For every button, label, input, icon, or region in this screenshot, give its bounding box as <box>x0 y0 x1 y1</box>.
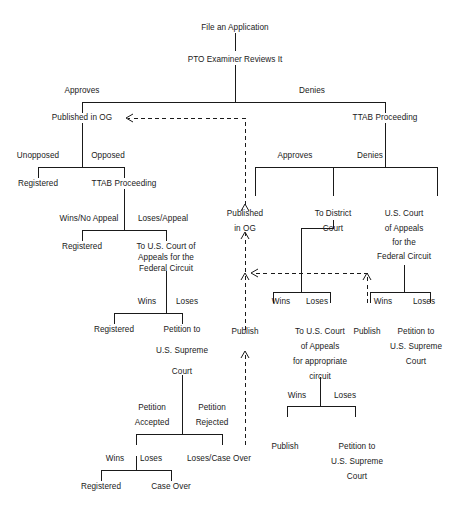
edge-label-petition-rejected-line2: Rejected <box>196 418 229 427</box>
edge-label-approves-top: Approves <box>65 86 100 95</box>
edge-label-wins-cafc-left: Wins <box>138 297 156 306</box>
node-published-og-mid-line2: in OG <box>234 224 256 233</box>
edge-label-loses-cafc-right: Loses <box>413 297 435 306</box>
node-scotus-left-line3: Court <box>172 367 193 376</box>
edge-label-denies-top: Denies <box>299 86 325 95</box>
node-publish-bottom: Publish <box>271 442 299 451</box>
node-circuit-court-line3: for appropriate <box>293 357 347 366</box>
node-publish-right: Publish <box>353 327 381 336</box>
node-cafc-left-line2: Appeals for the <box>138 253 194 262</box>
edge-label-petition-accepted-line2: Accepted <box>135 418 170 427</box>
node-ttab-left: TTAB Proceeding <box>92 179 157 188</box>
node-circuit-court-line1: To U.S. Court <box>295 327 345 336</box>
edge-label-approves-ttab-right: Approves <box>278 151 313 160</box>
node-registered-cafc-wins: Registered <box>94 325 134 334</box>
node-scotus-bottom-line1: Petition to <box>339 442 376 451</box>
edge-label-petition-accepted-line1: Petition <box>138 403 166 412</box>
node-scotus-bottom-line2: U.S. Supreme <box>331 457 383 466</box>
node-circuit-court-line2: of Appeals <box>301 342 340 351</box>
node-registered-wins-no-appeal: Registered <box>62 242 102 251</box>
edge-label-loses-appeal: Loses/Appeal <box>138 214 188 223</box>
edge-label-wins-no-appeal: Wins/No Appeal <box>60 214 119 223</box>
flowchart-svg: File an Application PTO Examiner Reviews… <box>0 0 462 518</box>
edge-label-opposed: Opposed <box>91 151 125 160</box>
edge-label-loses-scotus-left: Loses <box>140 454 162 463</box>
node-district-court-line2: Court <box>323 224 344 233</box>
node-scotus-right-line1: Petition to <box>398 327 435 336</box>
node-scotus-right-line2: U.S. Supreme <box>390 342 442 351</box>
node-pto-examiner: PTO Examiner Reviews It <box>188 55 283 64</box>
edge-labels: Approves Denies Unopposed Opposed Wins/N… <box>17 86 435 463</box>
node-cafc-left-line3: Federal Circuit <box>139 264 194 273</box>
edge-label-wins-cafc-right: Wins <box>374 297 392 306</box>
node-cafc-right-line2: of Appeals <box>385 224 424 233</box>
edge-label-petition-rejected-line1: Petition <box>198 403 226 412</box>
node-file-application: File an Application <box>201 23 269 32</box>
edge-label-loses-district: Loses <box>306 297 328 306</box>
node-circuit-court-line4: circuit <box>309 372 331 381</box>
node-case-over-left: Case Over <box>151 482 191 491</box>
node-scotus-right-line3: Court <box>406 357 427 366</box>
edge-label-wins-scotus-left: Wins <box>106 454 124 463</box>
node-registered-final-left: Registered <box>81 482 121 491</box>
edge-label-wins-circuit: Wins <box>288 391 306 400</box>
node-cafc-right-line1: U.S. Court <box>385 209 424 218</box>
node-district-court-line1: To District <box>315 209 352 218</box>
node-registered-unopposed: Registered <box>18 179 58 188</box>
node-cafc-right-line3: for the <box>392 238 416 247</box>
edge-label-denies-ttab-right: Denies <box>357 151 383 160</box>
node-cafc-left-line1: To U.S. Court of <box>136 242 196 251</box>
edge-label-loses-cafc-left: Loses <box>176 297 198 306</box>
node-published-og-mid-line1: Published <box>227 209 264 218</box>
node-scotus-bottom-line3: Court <box>347 472 368 481</box>
edge-label-wins-district: Wins <box>272 297 290 306</box>
flowchart-container: File an Application PTO Examiner Reviews… <box>0 0 462 518</box>
node-published-og-left: Published in OG <box>52 113 112 122</box>
node-scotus-left-line2: U.S. Supreme <box>156 346 208 355</box>
node-ttab-right: TTAB Proceeding <box>353 113 418 122</box>
node-publish-mid: Publish <box>231 327 259 336</box>
edge-label-unopposed: Unopposed <box>17 151 60 160</box>
node-scotus-left-line1: Petition to <box>164 325 201 334</box>
node-cafc-right-line4: Federal Circuit <box>377 252 432 261</box>
edge-label-loses-circuit: Loses <box>334 391 356 400</box>
edge-label-loses-case-over: Loses/Case Over <box>187 454 251 463</box>
